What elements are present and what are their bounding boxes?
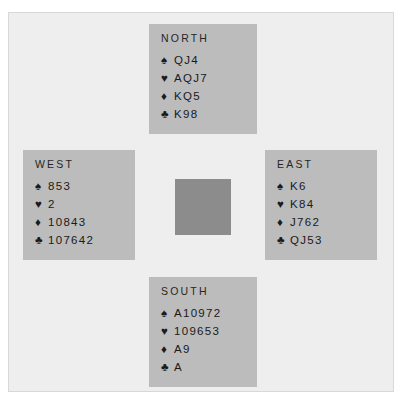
hand-east-diamonds-cards: J762 — [290, 213, 320, 231]
hand-south-label: SOUTH — [161, 285, 257, 297]
hand-north-hearts-cards: AQJ7 — [174, 69, 208, 87]
spade-icon: ♠ — [161, 304, 174, 322]
heart-icon: ♥ — [161, 322, 174, 340]
hand-north: NORTH ♠ QJ4 ♥ AQJ7 ♦ KQ5 ♣ K98 — [149, 24, 257, 134]
hand-west-diamonds-cards: 10843 — [48, 213, 86, 231]
heart-icon: ♥ — [35, 195, 48, 213]
hand-east-diamonds-row: ♦ J762 — [277, 213, 377, 231]
hand-west-clubs-cards: 107642 — [48, 231, 94, 249]
hand-east-spades-row: ♠ K6 — [277, 177, 377, 195]
hand-south: SOUTH ♠ A10972 ♥ 109653 ♦ A9 ♣ A — [149, 277, 257, 387]
club-icon: ♣ — [35, 231, 48, 249]
hand-east-clubs-row: ♣ QJ53 — [277, 231, 377, 249]
hand-south-hearts-cards: 109653 — [174, 322, 220, 340]
hand-east: EAST ♠ K6 ♥ K84 ♦ J762 ♣ QJ53 — [265, 150, 377, 260]
hand-north-diamonds-row: ♦ KQ5 — [161, 87, 257, 105]
hand-south-spades-row: ♠ A10972 — [161, 304, 257, 322]
club-icon: ♣ — [161, 358, 174, 376]
hand-west-spades-cards: 853 — [48, 177, 71, 195]
hand-north-hearts-row: ♥ AQJ7 — [161, 69, 257, 87]
hand-east-label: EAST — [277, 158, 377, 170]
club-icon: ♣ — [161, 105, 174, 123]
hand-south-diamonds-cards: A9 — [174, 340, 191, 358]
heart-icon: ♥ — [277, 195, 290, 213]
club-icon: ♣ — [277, 231, 290, 249]
hand-west-hearts-row: ♥ 2 — [35, 195, 135, 213]
spade-icon: ♠ — [277, 177, 290, 195]
hand-north-spades-row: ♠ QJ4 — [161, 51, 257, 69]
heart-icon: ♥ — [161, 69, 174, 87]
hand-south-clubs-cards: A — [174, 358, 183, 376]
hand-east-spades-cards: K6 — [290, 177, 307, 195]
table-center-square — [175, 179, 231, 235]
diamond-icon: ♦ — [35, 213, 48, 231]
spade-icon: ♠ — [35, 177, 48, 195]
hand-east-hearts-row: ♥ K84 — [277, 195, 377, 213]
hand-south-spades-cards: A10972 — [174, 304, 221, 322]
bridge-deal-diagram: NORTH ♠ QJ4 ♥ AQJ7 ♦ KQ5 ♣ K98 WEST ♠ 85… — [8, 12, 394, 392]
hand-south-diamonds-row: ♦ A9 — [161, 340, 257, 358]
hand-south-hearts-row: ♥ 109653 — [161, 322, 257, 340]
hand-west: WEST ♠ 853 ♥ 2 ♦ 10843 ♣ 107642 — [23, 150, 135, 260]
hand-west-clubs-row: ♣ 107642 — [35, 231, 135, 249]
hand-west-diamonds-row: ♦ 10843 — [35, 213, 135, 231]
hand-north-clubs-cards: K98 — [174, 105, 198, 123]
hand-north-clubs-row: ♣ K98 — [161, 105, 257, 123]
hand-south-clubs-row: ♣ A — [161, 358, 257, 376]
hand-north-diamonds-cards: KQ5 — [174, 87, 201, 105]
hand-north-spades-cards: QJ4 — [174, 51, 199, 69]
diamond-icon: ♦ — [277, 213, 290, 231]
hand-north-label: NORTH — [161, 32, 257, 44]
hand-east-hearts-cards: K84 — [290, 195, 314, 213]
diamond-icon: ♦ — [161, 87, 174, 105]
hand-west-label: WEST — [35, 158, 135, 170]
spade-icon: ♠ — [161, 51, 174, 69]
hand-west-spades-row: ♠ 853 — [35, 177, 135, 195]
hand-east-clubs-cards: QJ53 — [290, 231, 323, 249]
diamond-icon: ♦ — [161, 340, 174, 358]
hand-west-hearts-cards: 2 — [48, 195, 56, 213]
